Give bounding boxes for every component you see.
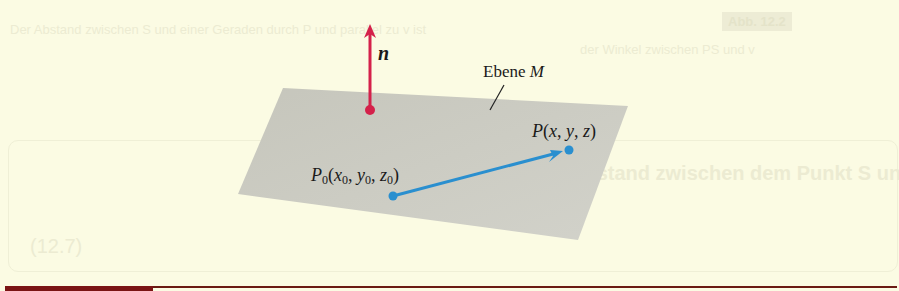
bottom-rule — [153, 286, 897, 288]
point-p-dot — [565, 146, 574, 155]
figure-canvas: Abb. 12.2 Der Abstand zwischen S und ein… — [0, 0, 899, 291]
point-p0-z-sub: 0 — [387, 173, 393, 187]
plane-m — [238, 88, 628, 240]
point-p0-z: z — [380, 165, 387, 185]
point-p0-dot — [389, 192, 398, 201]
plane-label: Ebene M — [483, 62, 544, 82]
point-p0-x: x — [334, 165, 342, 185]
plane-label-prefix: Ebene — [483, 62, 525, 81]
point-p0-y-sub: 0 — [365, 173, 371, 187]
point-p0-y: y — [357, 165, 365, 185]
point-p-z: z — [583, 121, 590, 141]
point-p-y: y — [566, 121, 574, 141]
point-p0-sub: 0 — [322, 173, 328, 187]
point-p0-label: P0(x0, y0, z0) — [311, 165, 399, 186]
normal-vector-base-point — [365, 105, 375, 115]
bottom-bar-accent — [5, 286, 153, 291]
point-p-x: x — [549, 121, 557, 141]
geometry-svg — [0, 0, 899, 291]
plane-label-var: M — [530, 62, 544, 81]
point-p-name: P — [532, 121, 543, 141]
normal-vector-label: n — [378, 42, 389, 65]
point-p-label: P(x, y, z) — [532, 121, 596, 142]
point-p0-x-sub: 0 — [342, 173, 348, 187]
point-p0-name: P — [311, 165, 322, 185]
